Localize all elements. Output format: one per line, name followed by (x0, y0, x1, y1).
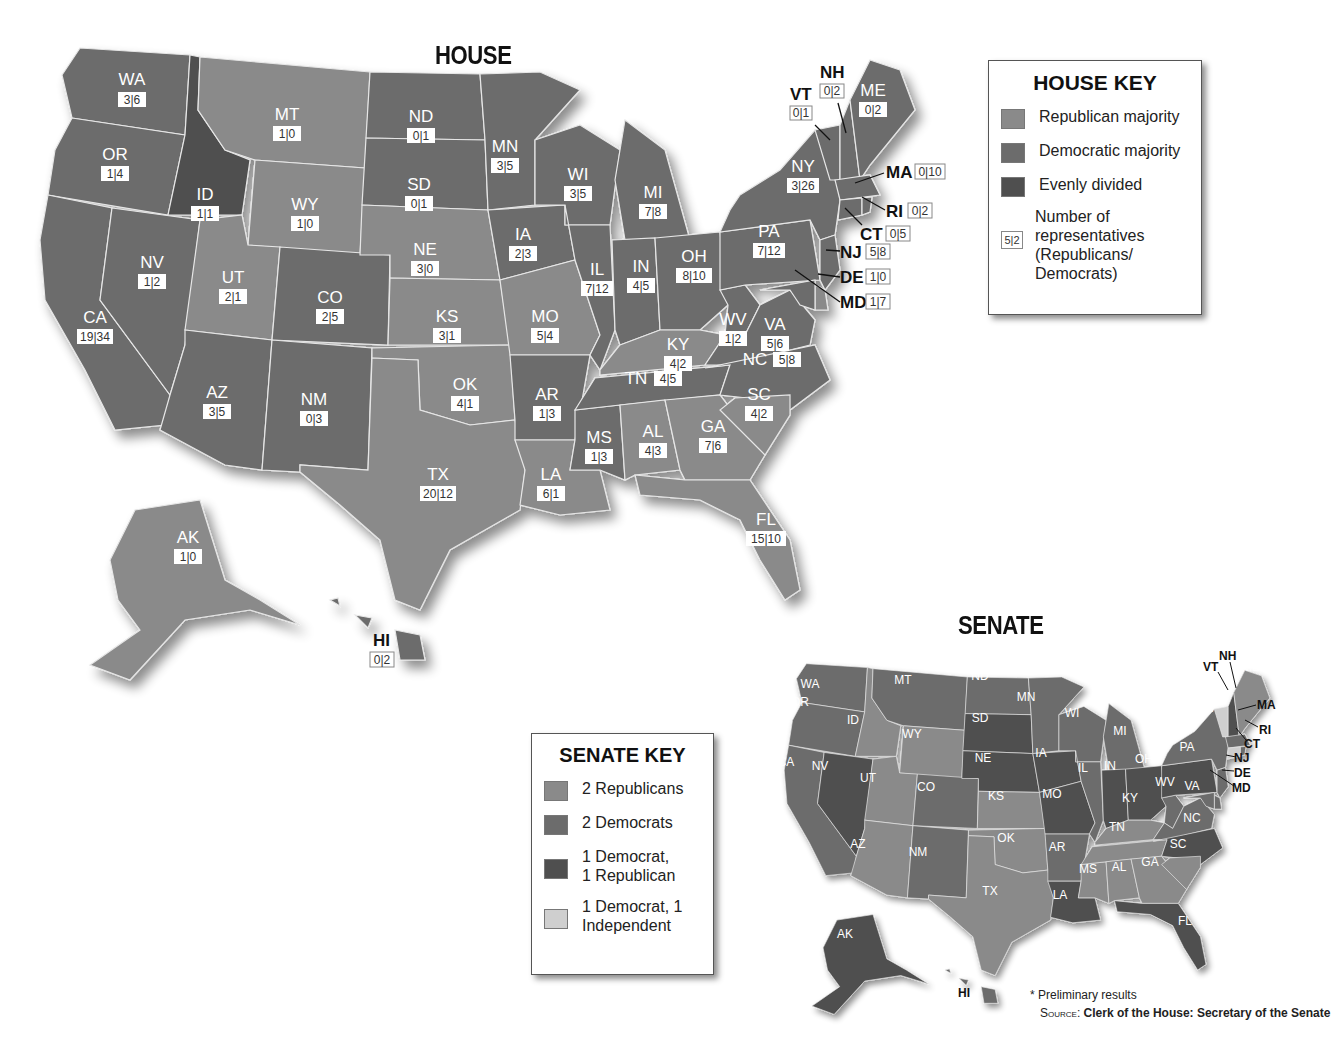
svg-text:WI: WI (1065, 706, 1080, 720)
svg-text:MO: MO (1042, 787, 1061, 801)
svg-text:AZ: AZ (850, 837, 865, 851)
senate-key-title: SENATE KEY (544, 744, 701, 767)
source-text: Clerk of the House: Secretary of the Sen… (1084, 1006, 1331, 1020)
senate-state-nj (1217, 767, 1228, 798)
svg-text:NM: NM (909, 845, 928, 859)
senate-key-item-2-republicans: 2 Republicans (544, 779, 701, 801)
svg-text:GA: GA (1141, 855, 1158, 869)
svg-text:ME: ME (1242, 660, 1260, 674)
senate-key-label: 1 Democrat, 1 Republican (582, 847, 682, 885)
svg-text:CO: CO (917, 780, 935, 794)
svg-text:OR: OR (791, 695, 809, 709)
senate-key: SENATE KEY 2 Republicans 2 Democrats 1 D… (531, 733, 714, 975)
senate-key-label: 2 Democrats (582, 813, 673, 832)
svg-text:KS: KS (988, 789, 1004, 803)
svg-text:IN: IN (1104, 759, 1116, 773)
svg-text:NJ: NJ (1234, 751, 1249, 765)
senate-key-item-independent: 1 Democrat, 1 Independent (544, 897, 701, 935)
svg-text:NC: NC (1183, 811, 1201, 825)
senate-state-fl (1114, 901, 1206, 970)
svg-text:MT: MT (894, 673, 912, 687)
svg-text:NE: NE (975, 751, 992, 765)
svg-text:NH: NH (1219, 649, 1236, 663)
svg-text:ID: ID (847, 713, 859, 727)
svg-text:TN: TN (1109, 820, 1125, 834)
svg-text:KY: KY (1122, 791, 1138, 805)
svg-text:SC: SC (1170, 837, 1187, 851)
senate-key-label: 2 Republicans (582, 779, 683, 798)
source-line: Source: Clerk of the House: Secretary of… (1040, 1006, 1330, 1020)
svg-text:DE: DE (1234, 766, 1251, 780)
svg-text:FL: FL (1178, 914, 1192, 928)
svg-text:MN: MN (1017, 690, 1036, 704)
svg-text:CT: CT (1244, 737, 1261, 751)
senate-state-hi (945, 969, 998, 1003)
senate-key-label: 1 Democrat, 1 Independent (582, 897, 692, 935)
svg-text:WY: WY (902, 727, 921, 741)
svg-text:WA: WA (801, 677, 820, 691)
svg-text:MS: MS (1079, 862, 1097, 876)
svg-text:IA: IA (1035, 746, 1046, 760)
svg-text:VA: VA (1184, 779, 1199, 793)
svg-text:TX: TX (982, 884, 997, 898)
svg-text:WV: WV (1155, 775, 1174, 789)
swatch-2-republicans (544, 781, 568, 801)
svg-text:VT: VT (1203, 660, 1219, 674)
svg-text:OK: OK (997, 831, 1014, 845)
svg-text:AR: AR (1049, 840, 1066, 854)
svg-text:IL: IL (1078, 761, 1088, 775)
senate-state-ak (812, 915, 929, 1015)
svg-text:AK: AK (837, 927, 853, 941)
svg-text:OH: OH (1135, 752, 1153, 766)
senate-key-item-2-democrats: 2 Democrats (544, 813, 701, 835)
svg-text:UT: UT (860, 771, 877, 785)
svg-text:RI: RI (1259, 723, 1271, 737)
svg-text:SD: SD (972, 711, 989, 725)
swatch-2-democrats (544, 815, 568, 835)
svg-text:NY: NY (1200, 701, 1217, 715)
svg-text:AL: AL (1112, 860, 1127, 874)
footnote: * Preliminary results (1030, 988, 1137, 1002)
swatch-dem-rep (544, 859, 568, 879)
swatch-dem-ind (544, 909, 568, 929)
svg-text:MD: MD (1232, 781, 1251, 795)
svg-text:ND: ND (971, 669, 989, 683)
svg-text:NV: NV (812, 759, 829, 773)
svg-text:CA: CA (778, 755, 795, 769)
source-label: Source: (1040, 1006, 1080, 1020)
svg-text:HI: HI (958, 986, 970, 1000)
senate-state-nm (907, 826, 968, 899)
svg-text:LA: LA (1053, 888, 1068, 902)
svg-text:PA: PA (1179, 740, 1194, 754)
senate-key-item-split: 1 Democrat, 1 Republican (544, 847, 701, 885)
svg-text:MI: MI (1113, 724, 1126, 738)
svg-text:MA: MA (1257, 698, 1276, 712)
